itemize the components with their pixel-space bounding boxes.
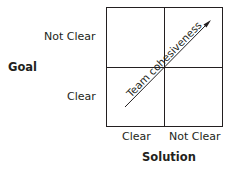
- matrix-diagram: Team cohesiveness: [0, 0, 230, 170]
- x-axis-title: Solution: [142, 150, 196, 164]
- arrow-label: Team cohesiveness: [123, 19, 204, 100]
- y-tick-not-clear: Not Clear: [44, 30, 96, 43]
- y-tick-clear: Clear: [67, 90, 96, 103]
- y-axis-title: Goal: [8, 60, 37, 74]
- x-tick-clear: Clear: [122, 130, 151, 143]
- x-tick-not-clear: Not Clear: [169, 130, 221, 143]
